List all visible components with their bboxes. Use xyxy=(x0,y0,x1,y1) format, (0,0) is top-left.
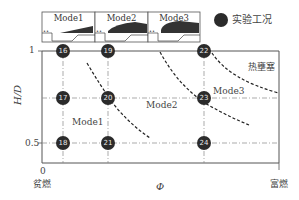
svg-text:••: •• xyxy=(43,28,49,34)
y-tick-0-5: 0.5 xyxy=(25,139,39,148)
x-tick-0: 0 xyxy=(40,167,46,176)
plot-frame xyxy=(38,51,279,170)
panel-mode1-label: Mode1 xyxy=(42,14,95,23)
panel-mode2-label: Mode2 xyxy=(95,14,148,23)
legend-marker-icon xyxy=(214,13,228,27)
region-thermal-choke-label: 热壅塞 xyxy=(248,63,275,72)
svg-text:••: •• xyxy=(149,28,155,34)
panel-mode3-label: Mode3 xyxy=(148,14,200,23)
x-label-lean: 贫燃 xyxy=(33,180,51,189)
point-18: 18 xyxy=(56,136,70,150)
region-mode2-label: Mode2 xyxy=(146,101,177,110)
legend-label: 实验工况 xyxy=(232,15,272,25)
region-mode1-label: Mode1 xyxy=(72,118,103,127)
point-19: 19 xyxy=(101,44,115,58)
point-22: 22 xyxy=(197,44,211,58)
y-tick-1: 1 xyxy=(29,46,35,55)
point-20: 20 xyxy=(101,91,115,105)
point-24: 24 xyxy=(197,136,211,150)
x-label-rich: 富燃 xyxy=(270,180,288,189)
region-mode3-label: Mode3 xyxy=(213,87,244,96)
y-axis-label: H/D xyxy=(13,85,23,105)
point-21: 21 xyxy=(101,136,115,150)
point-17: 17 xyxy=(56,91,70,105)
svg-text:••: •• xyxy=(96,28,102,34)
x-axis-label: Φ xyxy=(156,182,164,192)
point-23: 23 xyxy=(197,91,211,105)
point-16: 16 xyxy=(56,44,70,58)
